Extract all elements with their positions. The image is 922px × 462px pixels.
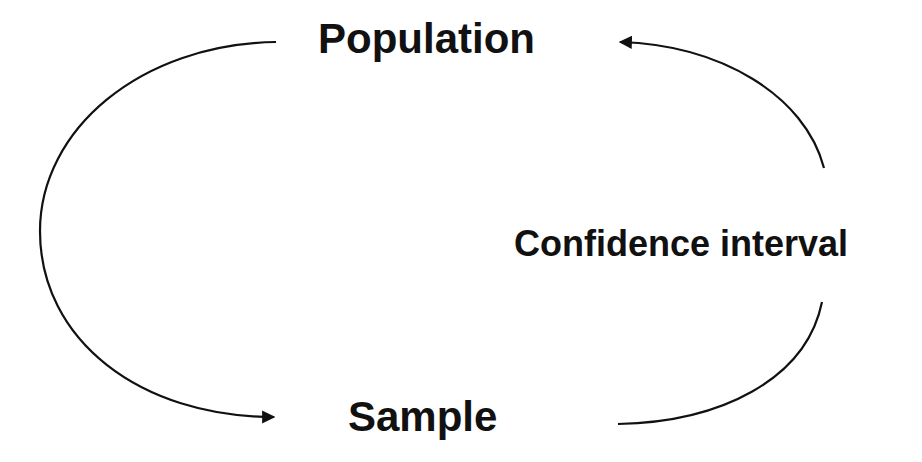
node-population: Population bbox=[318, 18, 535, 60]
line-sample-to-ci bbox=[618, 302, 822, 424]
arrow-ci-to-population bbox=[620, 42, 824, 168]
node-confidence-interval: Confidence interval bbox=[514, 226, 848, 262]
diagram-canvas: Population Confidence interval Sample bbox=[0, 0, 922, 462]
arrow-population-to-sample bbox=[40, 42, 276, 417]
node-sample: Sample bbox=[348, 396, 497, 438]
